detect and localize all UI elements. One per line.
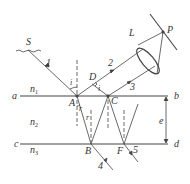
point-A-dot bbox=[76, 95, 78, 97]
label-ray-3: 3 bbox=[130, 82, 135, 92]
label-b: b bbox=[174, 91, 179, 101]
arrowhead-bottom bbox=[164, 139, 168, 143]
label-d: d bbox=[174, 139, 179, 149]
right-angle-mark bbox=[95, 82, 97, 86]
label-ray-1: 1 bbox=[46, 58, 51, 68]
focus-line-top bbox=[138, 32, 163, 45]
label-n3: n3 bbox=[30, 145, 38, 156]
label-angle-i2: i bbox=[98, 85, 100, 93]
focus-line-bottom bbox=[157, 32, 163, 74]
label-ray-4: 4 bbox=[98, 161, 103, 171]
label-angle-r2: r bbox=[86, 114, 89, 122]
label-C: C bbox=[111, 96, 118, 106]
label-F: F bbox=[117, 146, 123, 156]
label-L: L bbox=[129, 28, 135, 38]
n1-sub: 1 bbox=[35, 89, 38, 95]
ray-BC bbox=[91, 96, 108, 144]
thin-film-diagram: S L P a b c d n1 n2 n3 A C D B F 1 2 3 4… bbox=[0, 0, 190, 184]
label-S: S bbox=[26, 37, 31, 47]
ray-4-arrow bbox=[104, 158, 107, 162]
label-ray-5: 5 bbox=[133, 145, 138, 155]
label-thickness-e: e bbox=[159, 116, 163, 126]
label-A: A bbox=[69, 98, 75, 108]
n3-sub: 3 bbox=[35, 150, 38, 156]
lens bbox=[133, 45, 163, 77]
n2-sub: 2 bbox=[35, 122, 38, 128]
label-c: c bbox=[14, 139, 18, 149]
ray-2-arrow bbox=[110, 70, 114, 73]
label-n1: n1 bbox=[30, 84, 38, 95]
label-D: D bbox=[89, 72, 96, 82]
label-B: B bbox=[85, 146, 91, 156]
arrowhead-top bbox=[164, 97, 168, 101]
label-angle-r: r bbox=[79, 105, 82, 113]
label-P: P bbox=[167, 25, 173, 35]
label-n2: n2 bbox=[30, 117, 38, 128]
label-a: a bbox=[12, 91, 17, 101]
diagram-svg bbox=[0, 0, 190, 184]
point-P-dot bbox=[162, 31, 164, 33]
point-C-dot bbox=[107, 95, 109, 97]
angle-i-arc bbox=[70, 87, 77, 89]
label-angle-i: i bbox=[70, 79, 72, 87]
label-ray-2: 2 bbox=[108, 58, 113, 68]
ray-F-up bbox=[124, 104, 138, 144]
